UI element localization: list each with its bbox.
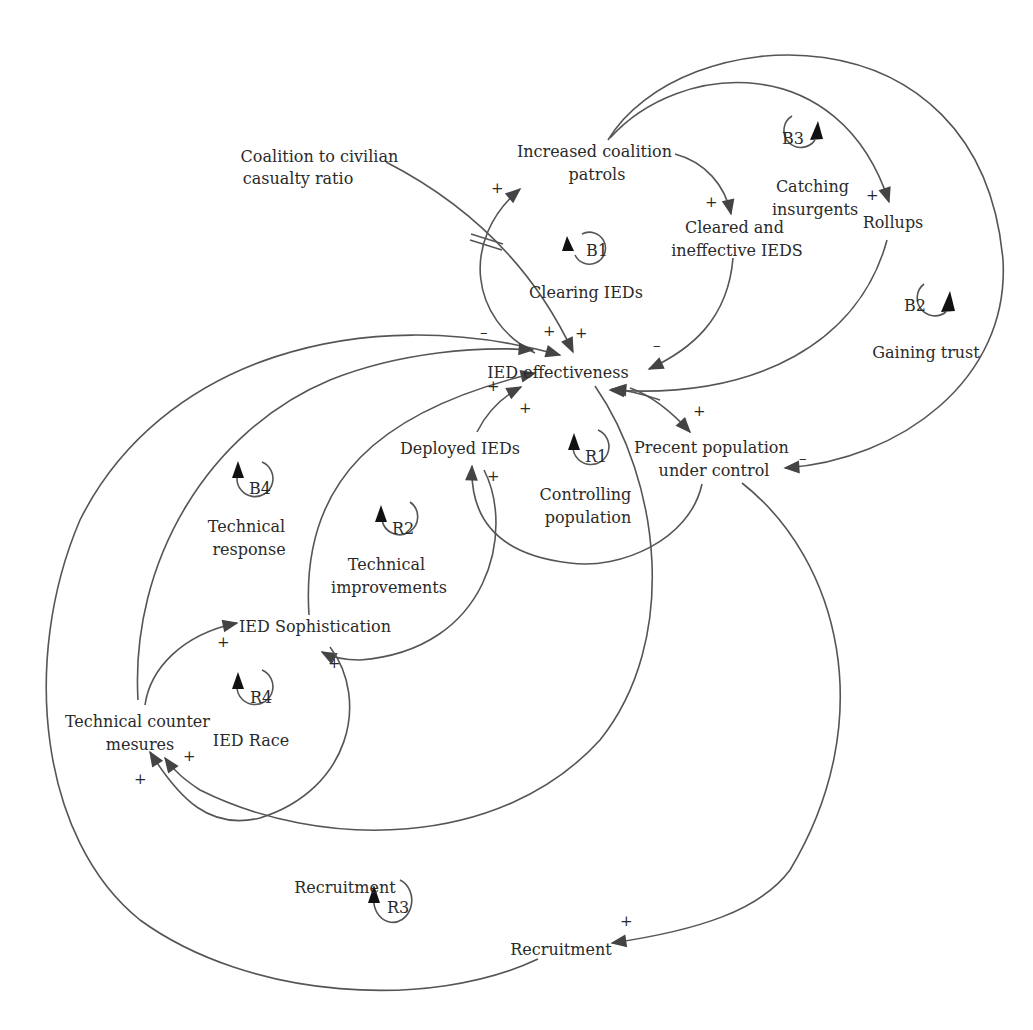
- loop-id-b1: B1: [586, 241, 608, 260]
- polarity-counter-in-a: +: [183, 747, 196, 765]
- node-recruitment-loop-label: Recruitment: [294, 878, 396, 897]
- polarity-eff-plus-deployed: +: [519, 399, 532, 417]
- polarity-pop-minus: –: [799, 449, 807, 467]
- node-ied-effectiveness: IED effectiveness: [487, 363, 628, 382]
- polarity-rollups-in: +: [866, 186, 879, 204]
- polarity-counter-in-b: +: [134, 770, 147, 788]
- loop-name-b4: Technical response: [208, 517, 290, 559]
- polarity-pop-in: +: [693, 402, 706, 420]
- loop-marker-r2: R2: [375, 502, 418, 538]
- loop-arrow-icon: [562, 236, 574, 251]
- loop-marker-b2: B2: [904, 284, 955, 316]
- node-recruitment: Recruitment: [510, 940, 612, 959]
- node-coalition-ratio: Coalition to civilian casualty ratio: [241, 147, 404, 188]
- edge-patrols-to-population: [608, 55, 1003, 468]
- loop-id-b4: B4: [249, 479, 271, 498]
- edges: [46, 55, 1003, 990]
- polarity-patrols-in: +: [491, 179, 504, 197]
- loop-id-b2: B2: [904, 296, 926, 315]
- edge-effectiveness-to-patrols: [480, 189, 535, 353]
- loop-name-r4: IED Race: [213, 731, 289, 750]
- edge-population-to-recruitment: [612, 483, 840, 943]
- node-ied-sophistication: IED Sophistication: [239, 617, 391, 636]
- loop-name-b1: Clearing IEDs: [529, 283, 643, 302]
- loop-id-b3: B3: [782, 129, 804, 148]
- loop-id-r2: R2: [392, 519, 414, 538]
- loop-id-r4: R4: [250, 688, 272, 707]
- loop-id-r3: R3: [387, 898, 409, 917]
- loop-name-b2: Gaining trust: [872, 343, 980, 362]
- loop-marker-r4: R4: [232, 670, 273, 707]
- edge-effectiveness-to-population: [630, 388, 690, 432]
- loop-arrow-icon: [810, 121, 823, 140]
- loop-marker-b1: B1: [562, 232, 608, 264]
- node-population-control: Precent population under control: [634, 438, 794, 480]
- polarity-eff-plus-left: +: [487, 377, 500, 395]
- loop-arrow-icon: [232, 672, 244, 689]
- polarity-eff-minus-left: –: [480, 323, 488, 341]
- loop-arrow-icon: [941, 291, 955, 312]
- node-rollups: Rollups: [863, 213, 924, 232]
- polarity-eff-plus-b: +: [575, 324, 588, 342]
- loop-marker-b3: B3: [782, 116, 823, 148]
- loop-name-r1: Controlling population: [540, 485, 637, 527]
- polarity-deployed-in: +: [487, 467, 500, 485]
- polarity-soph-in-right: +: [328, 654, 341, 672]
- loop-id-r1: R1: [585, 447, 607, 466]
- loop-name-b3: Catching insurgents: [772, 177, 858, 219]
- loop-name-r2: Technical improvements: [331, 555, 447, 597]
- edge-countermeasures-to-effectiveness-b4: [137, 349, 533, 700]
- node-coalition-patrols: Increased coalition patrols: [517, 142, 677, 184]
- edge-cleared-to-effectiveness: [649, 258, 733, 369]
- node-cleared-ieds: Cleared and ineffective IEDS: [671, 218, 803, 260]
- polarity-recruit-in: +: [620, 912, 633, 930]
- edge-patrols-to-cleared: [675, 154, 731, 214]
- polarity-eff-plus-a: +: [543, 322, 556, 340]
- polarity-eff-minus-right: –: [653, 336, 661, 354]
- loop-arrow-icon: [568, 433, 580, 450]
- loop-arrow-icon: [375, 505, 387, 522]
- loop-marker-b4: B4: [232, 461, 273, 498]
- causal-loop-diagram: B1 B2 B3 B4 R1 R2: [0, 0, 1033, 1030]
- polarity-cleared-in: +: [705, 193, 718, 211]
- loop-marker-r1: R1: [568, 430, 609, 466]
- polarity-soph-in-left: +: [217, 633, 230, 651]
- loop-arrow-icon: [232, 461, 244, 478]
- node-deployed-ieds: Deployed IEDs: [400, 439, 520, 458]
